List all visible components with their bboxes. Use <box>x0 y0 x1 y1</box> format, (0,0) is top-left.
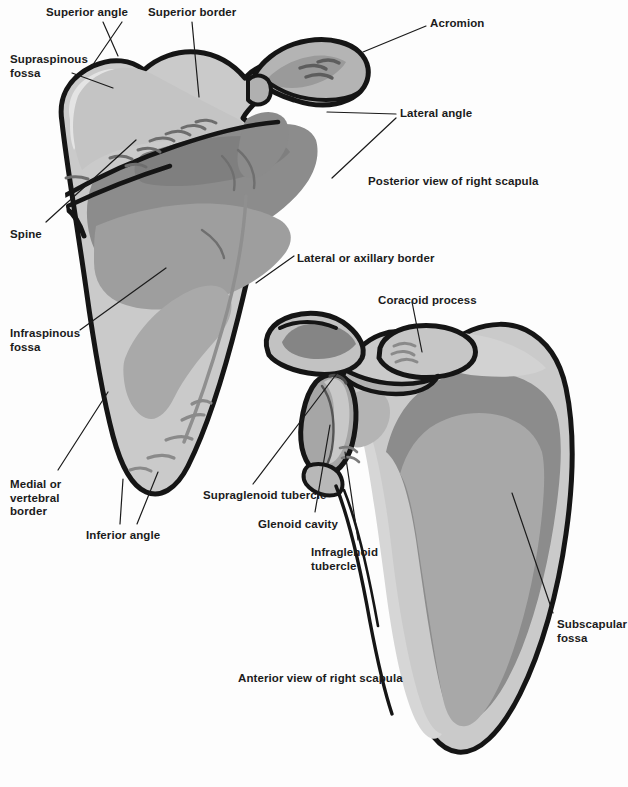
label-spine: Spine <box>10 228 42 242</box>
label-glenoid-cavity: Glenoid cavity <box>258 518 338 532</box>
label-lateral-or-axillary-border: Lateral or axillary border <box>297 252 434 266</box>
label-supraspinous-fossa: Supraspinous fossa <box>10 53 88 80</box>
caption-anterior-view: Anterior view of right scapula <box>238 672 403 686</box>
label-subscapular-fossa: Subscapular fossa <box>557 618 627 645</box>
anterior-view-scapula <box>266 313 572 752</box>
coracoid-process <box>379 326 476 378</box>
label-infraspinous-fossa: Infraspinous fossa <box>10 327 80 354</box>
label-inferior-angle: Inferior angle <box>86 529 160 543</box>
label-superior-angle: Superior angle <box>46 6 128 20</box>
acromion-neck <box>248 76 271 105</box>
label-medial-or-vertebral-border: Medial or vertebral border <box>10 478 61 519</box>
scapula-illustration <box>0 0 628 787</box>
label-superior-border: Superior border <box>148 6 236 20</box>
label-infraglenoid-tubercle: Infraglenoid tubercle <box>311 546 378 573</box>
label-lateral-angle: Lateral angle <box>400 107 472 121</box>
label-coracoid-process: Coracoid process <box>378 294 477 308</box>
caption-posterior-view: Posterior view of right scapula <box>368 175 539 189</box>
label-acromion: Acromion <box>430 17 484 31</box>
scapula-figure: Superior angle Superior border Acromion … <box>0 0 628 787</box>
label-supraglenoid-tubercle: Supraglenoid tubercle <box>203 489 327 503</box>
